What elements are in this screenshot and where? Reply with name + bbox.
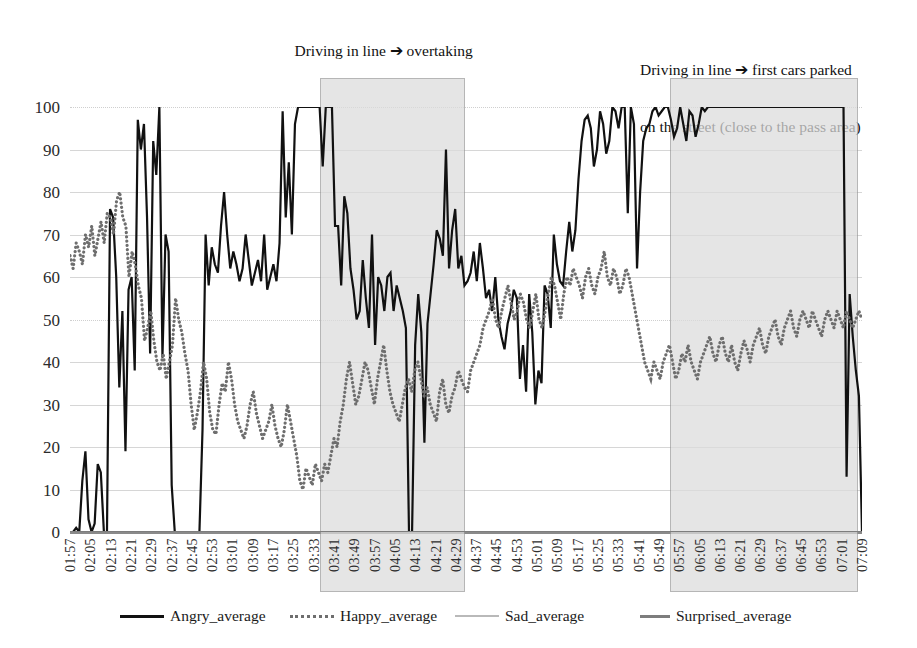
x-axis-tick-label: 05:57 bbox=[672, 538, 688, 572]
chart-page: Driving in line ➔ overtaking Driving in … bbox=[0, 0, 917, 648]
legend-label: Happy_average bbox=[340, 607, 437, 625]
x-axis-tick-label: 02:45 bbox=[185, 538, 201, 572]
annotation-left: Driving in line ➔ overtaking bbox=[279, 22, 473, 79]
x-axis-tick-label: 02:29 bbox=[144, 538, 160, 572]
legend-label: Angry_average bbox=[170, 607, 266, 625]
x-axis-tick-label: 06:45 bbox=[794, 538, 810, 572]
legend-swatch-icon bbox=[640, 615, 670, 618]
x-axis-tick-label: 02:13 bbox=[104, 538, 120, 572]
x-axis-tick-label: 03:01 bbox=[225, 538, 241, 572]
legend-item[interactable]: Angry_average bbox=[120, 607, 266, 625]
legend-swatch-icon bbox=[290, 615, 334, 618]
x-axis-tick-label: 03:17 bbox=[266, 538, 282, 572]
x-axis-tick-label: 04:37 bbox=[469, 538, 485, 572]
x-axis-tick-label: 06:13 bbox=[713, 538, 729, 572]
x-axis-tick-label: 03:49 bbox=[347, 538, 363, 572]
legend-swatch-icon bbox=[455, 615, 499, 617]
annotation-left-text: Driving in line ➔ overtaking bbox=[295, 42, 473, 59]
y-axis-tick-label: 70 bbox=[8, 226, 60, 243]
x-axis-tick-label: 04:53 bbox=[510, 538, 526, 572]
x-axis-tick-label: 04:13 bbox=[408, 538, 424, 572]
y-axis-tick-label: 30 bbox=[8, 396, 60, 413]
x-axis-tick-label: 06:29 bbox=[753, 538, 769, 572]
legend-label: Surprised_average bbox=[676, 607, 791, 625]
x-axis-tick-label: 06:37 bbox=[774, 538, 790, 572]
y-axis-tick-label: 10 bbox=[8, 481, 60, 498]
x-axis-tick-label: 05:17 bbox=[571, 538, 587, 572]
y-axis-tick-label: 40 bbox=[8, 354, 60, 371]
x-axis-tick-label: 02:05 bbox=[83, 538, 99, 572]
y-axis-tick-label: 90 bbox=[8, 141, 60, 158]
x-axis-tick-label: 05:49 bbox=[652, 538, 668, 572]
x-axis-tick-label: 06:05 bbox=[693, 538, 709, 572]
legend-swatch-icon bbox=[120, 615, 164, 618]
legend-label: Sad_average bbox=[505, 607, 584, 625]
x-axis-tick-label: 03:57 bbox=[368, 538, 384, 572]
chart-legend: Angry_averageHappy_averageSad_averageSur… bbox=[0, 607, 917, 635]
x-axis-tick-label: 05:25 bbox=[591, 538, 607, 572]
x-axis-tick-label: 03:33 bbox=[307, 538, 323, 572]
x-axis-tick-label: 07:09 bbox=[855, 538, 871, 572]
x-axis-tick-label: 05:41 bbox=[632, 538, 648, 572]
y-axis-tick-label: 20 bbox=[8, 439, 60, 456]
x-axis-tick-label: 04:05 bbox=[388, 538, 404, 572]
legend-item[interactable]: Surprised_average bbox=[640, 607, 791, 625]
x-axis-tick-label: 03:25 bbox=[286, 538, 302, 572]
y-axis-tick-label: 60 bbox=[8, 269, 60, 286]
y-axis-tick-label: 0 bbox=[8, 524, 60, 541]
y-axis-tick-label: 50 bbox=[8, 311, 60, 328]
x-axis-tick-label: 07:01 bbox=[835, 538, 851, 572]
x-axis-tick-label: 04:45 bbox=[489, 538, 505, 572]
series-line bbox=[70, 192, 862, 490]
x-axis-tick-label: 05:33 bbox=[611, 538, 627, 572]
x-axis-tick-label: 03:41 bbox=[327, 538, 343, 572]
series-line bbox=[70, 107, 862, 532]
x-axis-tick-label: 05:09 bbox=[550, 538, 566, 572]
y-axis-tick-label: 100 bbox=[8, 99, 60, 116]
legend-item[interactable]: Happy_average bbox=[290, 607, 437, 625]
x-axis-tick-label: 04:21 bbox=[429, 538, 445, 572]
legend-item[interactable]: Sad_average bbox=[455, 607, 584, 625]
chart-plot-area bbox=[70, 107, 862, 532]
annotation-right-line1: Driving in line ➔ first cars parked bbox=[640, 60, 861, 79]
x-axis-tick-label: 02:53 bbox=[205, 538, 221, 572]
x-axis-tick-label: 05:01 bbox=[530, 538, 546, 572]
x-axis-tick-label: 01:57 bbox=[63, 538, 79, 572]
x-axis-tick-label: 06:21 bbox=[733, 538, 749, 572]
x-axis-tick-label: 03:09 bbox=[246, 538, 262, 572]
x-axis-tick-label: 02:21 bbox=[124, 538, 140, 572]
x-axis-tick-label: 06:53 bbox=[814, 538, 830, 572]
x-axis-tick-label: 04:29 bbox=[449, 538, 465, 572]
y-axis-tick-label: 80 bbox=[8, 184, 60, 201]
x-axis-tick-label: 02:37 bbox=[165, 538, 181, 572]
